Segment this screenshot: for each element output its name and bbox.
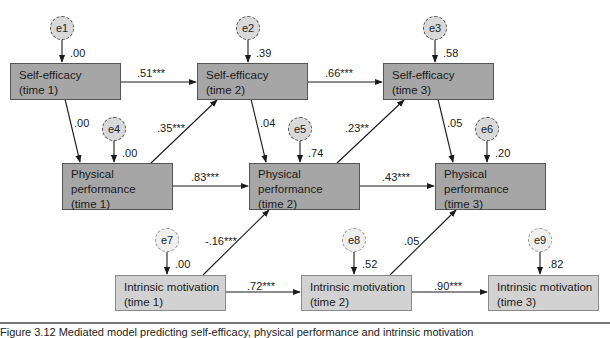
- node-label: performance: [71, 182, 164, 197]
- node-label: (time 2): [206, 83, 299, 98]
- node-label: performance: [258, 182, 351, 197]
- error-coef-e4: .00: [122, 147, 137, 159]
- path-coef-im2-pp3: .05: [404, 235, 419, 247]
- path-coef-pp2-se3: .23**: [345, 122, 369, 134]
- error-term-e4: e4: [102, 117, 126, 141]
- path-coef-im1-im2: .72***: [247, 280, 275, 292]
- error-coef-e5: .74: [308, 147, 323, 159]
- path-coef-im1-pp2: -.16***: [205, 235, 237, 247]
- node-physical-performance-time3: Physical performance (time 3): [435, 163, 546, 210]
- node-intrinsic-motivation-time3: Intrinsic motivation (time 3): [488, 275, 599, 311]
- node-label: Self-efficacy: [392, 68, 485, 83]
- error-coef-e1: .00: [70, 47, 85, 59]
- path-coef-se3-pp3: .05: [447, 117, 462, 129]
- node-label: Intrinsic motivation: [310, 280, 403, 295]
- node-intrinsic-motivation-time2: Intrinsic motivation (time 2): [301, 275, 412, 311]
- node-label: Physical: [71, 167, 164, 182]
- node-intrinsic-motivation-time1: Intrinsic motivation (time 1): [115, 275, 226, 311]
- path-coef-pp1-pp2: .83***: [191, 171, 219, 183]
- node-label: (time 1): [124, 295, 217, 310]
- node-label: performance: [444, 182, 537, 197]
- error-term-e8: e8: [342, 228, 366, 252]
- node-self-efficacy-time3: Self-efficacy (time 3): [383, 63, 494, 100]
- path-coef-pp1-se2: .35***: [157, 122, 185, 134]
- node-label: (time 1): [19, 83, 112, 98]
- error-coef-e8: .52: [362, 258, 377, 270]
- error-coef-e2: .39: [256, 47, 271, 59]
- error-coef-e9: .82: [548, 258, 563, 270]
- node-physical-performance-time2: Physical performance (time 2): [249, 163, 360, 210]
- figure-caption: Figure 3.12 Mediated model predicting se…: [0, 326, 473, 338]
- node-label: Intrinsic motivation: [124, 280, 217, 295]
- error-coef-e6: .20: [495, 147, 510, 159]
- node-self-efficacy-time1: Self-efficacy (time 1): [10, 63, 121, 100]
- error-term-e3: e3: [423, 16, 447, 40]
- node-label: (time 3): [392, 83, 485, 98]
- node-label: Physical: [444, 167, 537, 182]
- path-coef-se1-pp1: .00: [74, 117, 89, 129]
- path-coef-se2-pp2: .04: [260, 117, 275, 129]
- node-label: (time 2): [258, 197, 351, 212]
- node-label: (time 3): [444, 197, 537, 212]
- arrow-im2-pp3: [390, 210, 456, 275]
- node-label: (time 1): [71, 197, 164, 212]
- error-term-e9: e9: [528, 228, 552, 252]
- node-self-efficacy-time2: Self-efficacy (time 2): [197, 63, 308, 100]
- error-coef-e3: .58: [443, 47, 458, 59]
- node-label: (time 3): [497, 295, 590, 310]
- path-coef-se2-se3: .66***: [325, 67, 353, 79]
- node-label: Self-efficacy: [206, 68, 299, 83]
- error-term-e1: e1: [50, 16, 74, 40]
- path-coef-se1-se2: .51***: [137, 67, 165, 79]
- node-label: Intrinsic motivation: [497, 280, 590, 295]
- path-coef-pp2-pp3: .43***: [382, 171, 410, 183]
- error-term-e7: e7: [155, 228, 179, 252]
- arrow-se1-pp1: [65, 99, 80, 162]
- arrow-se2-pp2: [251, 99, 266, 162]
- node-label: Self-efficacy: [19, 68, 112, 83]
- error-term-e6: e6: [475, 117, 499, 141]
- node-label: Physical: [258, 167, 351, 182]
- error-term-e2: e2: [236, 16, 260, 40]
- arrow-se3-pp3: [438, 99, 453, 162]
- path-coef-im2-im3: .90***: [434, 280, 462, 292]
- caption-divider: [0, 322, 610, 324]
- error-term-e5: e5: [288, 117, 312, 141]
- node-physical-performance-time1: Physical performance (time 1): [62, 163, 173, 210]
- error-coef-e7: .00: [175, 258, 190, 270]
- node-label: (time 2): [310, 295, 403, 310]
